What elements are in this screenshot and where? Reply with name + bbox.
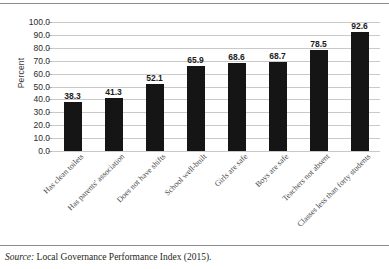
source-label: Source: xyxy=(5,252,34,262)
bar-value-label: 68.7 xyxy=(258,51,298,61)
figure-container: Percent 100.090.080.070.060.050.040.030.… xyxy=(0,0,389,269)
figure-bottom-rule xyxy=(0,245,389,246)
bar-value-label: 38.3 xyxy=(53,91,93,101)
figure-top-rule xyxy=(0,3,389,4)
y-axis-tick-label: 70.0 xyxy=(4,56,50,66)
y-axis-tick-labels: 100.090.080.070.060.050.040.030.020.010.… xyxy=(0,22,50,151)
gridline xyxy=(52,125,380,126)
y-axis-tick-label: 80.0 xyxy=(4,43,50,53)
y-axis-tick-label: 20.0 xyxy=(4,120,50,130)
y-axis-tick-label: 100.0 xyxy=(4,17,50,27)
y-axis-tick-label: 60.0 xyxy=(4,69,50,79)
gridline xyxy=(52,74,380,75)
y-axis-tick-label: 90.0 xyxy=(4,30,50,40)
source-text: Local Governance Performance Index (2015… xyxy=(37,252,212,262)
bar-value-label: 52.1 xyxy=(135,73,175,83)
gridline xyxy=(52,35,380,36)
bar-value-label: 68.6 xyxy=(217,52,257,62)
y-axis-tick-label: 40.0 xyxy=(4,94,50,104)
bar xyxy=(64,102,82,151)
bar-value-label: 41.3 xyxy=(94,87,134,97)
y-axis-tick-label: 10.0 xyxy=(4,133,50,143)
x-axis-category-labels: Has clean toiletsHas parents' associatio… xyxy=(52,152,380,242)
bar-value-label: 78.5 xyxy=(299,39,339,49)
bar-chart: Percent 100.090.080.070.060.050.040.030.… xyxy=(0,6,389,242)
gridline xyxy=(52,22,380,23)
bar xyxy=(269,62,287,151)
bar xyxy=(228,63,246,151)
gridline xyxy=(52,99,380,100)
bar-value-label: 65.9 xyxy=(176,55,216,65)
y-axis-tick-label: 50.0 xyxy=(4,82,50,92)
y-axis-tick-label: 0.0 xyxy=(4,146,50,156)
bar xyxy=(187,66,205,151)
bar-value-label: 92.6 xyxy=(340,21,380,31)
y-axis-tick-label: 30.0 xyxy=(4,107,50,117)
gridline xyxy=(52,112,380,113)
source-caption: Source: Local Governance Performance Ind… xyxy=(5,252,211,262)
